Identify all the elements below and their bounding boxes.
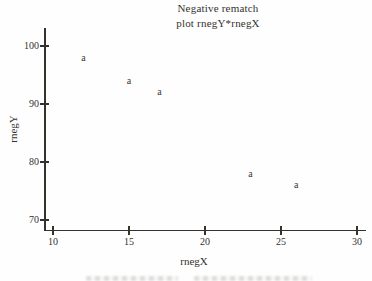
- x-tick-label: 10: [38, 236, 68, 247]
- chart-title-line1: Negative rematch: [118, 1, 318, 16]
- data-point-marker: a: [81, 52, 85, 62]
- cutoff-caption-artifact: [194, 276, 312, 281]
- y-tick-label: 100: [11, 40, 39, 51]
- data-point-marker: a: [127, 75, 131, 85]
- x-tick: [204, 226, 206, 235]
- x-tick-label: 30: [342, 236, 372, 247]
- cutoff-caption-artifact: [86, 276, 178, 281]
- x-tick: [280, 226, 282, 235]
- y-axis-label: rnegY: [7, 99, 19, 159]
- x-tick: [128, 226, 130, 235]
- y-tick: [40, 103, 49, 105]
- x-axis-label: rnegX: [164, 255, 224, 267]
- y-tick: [40, 219, 49, 221]
- x-tick: [52, 226, 54, 235]
- y-tick: [40, 161, 49, 163]
- y-axis-line: [44, 28, 46, 230]
- y-tick: [40, 45, 49, 47]
- x-tick-label: 25: [266, 236, 296, 247]
- y-tick-label: 70: [11, 214, 39, 225]
- chart-title: Negative rematch plot rnegY*rnegX: [118, 1, 318, 30]
- x-tick: [356, 226, 358, 235]
- x-tick-label: 20: [190, 236, 220, 247]
- scatter-plot-figure: Negative rematch plot rnegY*rnegX 101520…: [0, 0, 372, 281]
- x-tick-label: 15: [114, 236, 144, 247]
- data-point-marker: a: [294, 180, 298, 190]
- chart-title-line2: plot rnegY*rnegX: [118, 16, 318, 31]
- data-point-marker: a: [248, 168, 252, 178]
- data-point-marker: a: [157, 87, 161, 97]
